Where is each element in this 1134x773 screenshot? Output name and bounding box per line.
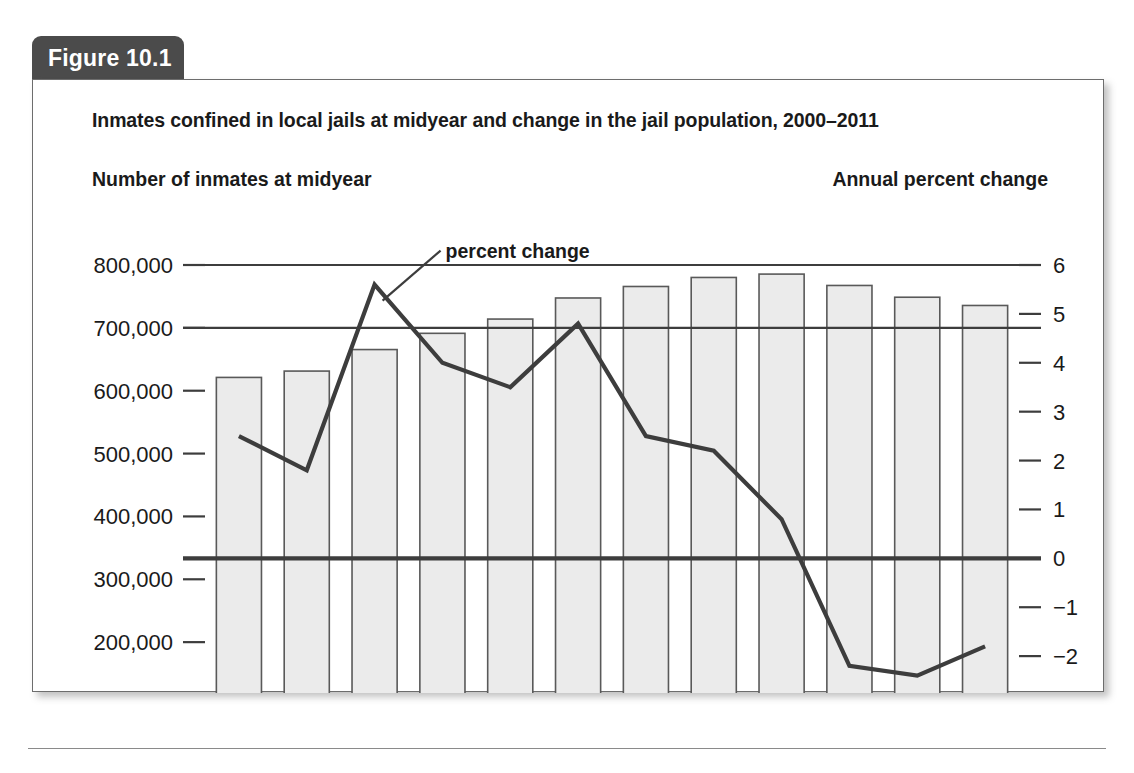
bar <box>284 371 329 693</box>
y-axis-right-ticks: 6543210−1−2−3 <box>1019 253 1078 693</box>
bar <box>691 277 736 693</box>
bar <box>623 286 668 693</box>
y-axis-left-ticks: 800,000700,000600,000500,000400,000300,0… <box>93 253 205 693</box>
bars-group <box>216 274 1007 693</box>
y-axis-right-tick-label: −2 <box>1053 644 1078 669</box>
figure-panel: Inmates confined in local jails at midye… <box>32 79 1104 692</box>
y-axis-right-tick-label: 4 <box>1053 351 1065 376</box>
chart-plot-area: 800,000700,000600,000500,000400,000300,0… <box>33 80 1105 693</box>
y-axis-left-tick-label: 500,000 <box>93 442 173 467</box>
figure-number-label: Figure 10.1 <box>48 45 172 72</box>
y-axis-right-tick-label: 2 <box>1053 449 1065 474</box>
bar <box>963 305 1008 693</box>
bar <box>420 333 465 693</box>
percent-change-annotation: percent change <box>383 240 590 301</box>
bar <box>895 297 940 693</box>
y-axis-left-tick-label: 200,000 <box>93 630 173 655</box>
figure-container: Figure 10.1 Inmates confined in local ja… <box>32 36 1104 696</box>
bar <box>216 377 261 693</box>
bar <box>556 298 601 693</box>
y-axis-right-tick-label: 1 <box>1053 497 1065 522</box>
y-axis-right-tick-label: 0 <box>1053 546 1065 571</box>
bar <box>352 350 397 693</box>
page-divider-rule <box>28 748 1106 749</box>
y-axis-left-tick-label: 800,000 <box>93 253 173 278</box>
y-axis-right-tick-label: 3 <box>1053 400 1065 425</box>
bar <box>759 274 804 693</box>
y-axis-right-tick-label: −1 <box>1053 595 1078 620</box>
y-axis-left-tick-label: 400,000 <box>93 504 173 529</box>
y-axis-right-tick-label: 5 <box>1053 302 1065 327</box>
y-axis-left-tick-label: 300,000 <box>93 567 173 592</box>
y-axis-left-tick-label: 700,000 <box>93 316 173 341</box>
percent-change-line <box>239 285 985 676</box>
figure-number-tab: Figure 10.1 <box>32 36 184 80</box>
annotation-label: percent change <box>446 240 590 262</box>
y-axis-right-tick-label: 6 <box>1053 253 1065 278</box>
y-axis-left-tick-label: 600,000 <box>93 379 173 404</box>
